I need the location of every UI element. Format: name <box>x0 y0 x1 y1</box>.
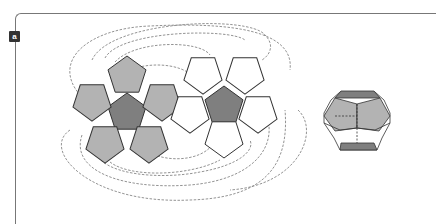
dodecahedron-solid <box>324 91 390 150</box>
net-right <box>163 47 285 158</box>
net-left <box>65 56 189 167</box>
